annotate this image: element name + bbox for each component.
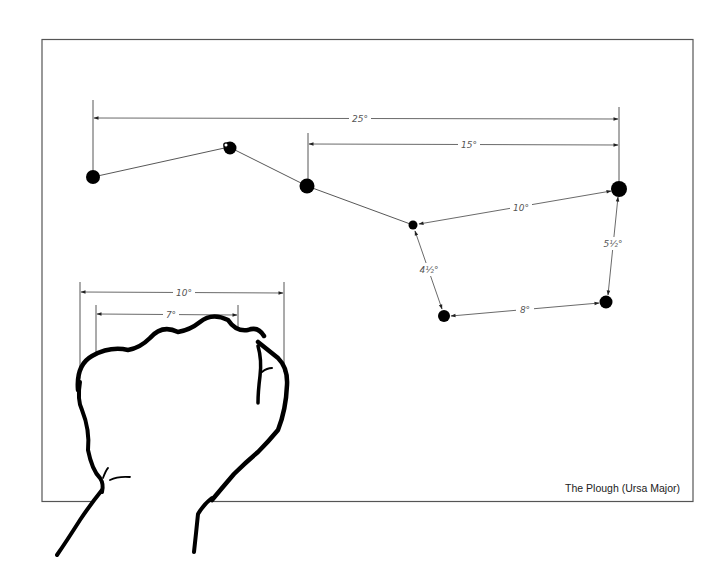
star-dubhe bbox=[611, 181, 627, 197]
label-5-5-degrees: 5½° bbox=[604, 239, 623, 249]
fist-illustration bbox=[40, 316, 287, 560]
dimension-25: 25° bbox=[94, 112, 618, 124]
constellation-lines bbox=[93, 147, 413, 225]
star-phecda bbox=[438, 310, 450, 322]
star-alioth bbox=[300, 179, 315, 194]
dimension-4-5: 4½° bbox=[415, 231, 442, 309]
dimension-8: 8° bbox=[451, 303, 599, 316]
dimension-15: 15° bbox=[309, 138, 618, 150]
label-15-degrees: 15° bbox=[461, 140, 477, 150]
stars bbox=[86, 142, 627, 323]
star-merak bbox=[600, 296, 613, 309]
dimension-5-5: 5½° bbox=[602, 197, 624, 295]
dimension-10-stars: 10° bbox=[419, 191, 611, 224]
label-8-degrees: 8° bbox=[520, 305, 530, 315]
dimension-fist-10: 10° bbox=[81, 286, 283, 298]
diagram-caption: The Plough (Ursa Major) bbox=[565, 482, 680, 494]
label-fist-7-degrees: 7° bbox=[166, 310, 176, 320]
label-10-degrees: 10° bbox=[513, 203, 529, 213]
label-fist-10-degrees: 10° bbox=[176, 288, 192, 298]
label-4-5-degrees: 4½° bbox=[420, 265, 439, 275]
star-alkaid bbox=[86, 170, 100, 184]
star-alcor-companion bbox=[224, 143, 228, 147]
star-megrez bbox=[409, 221, 418, 230]
plough-diagram: 25° 15° 10° 5½° 4½° 8° 10° 7° bbox=[0, 0, 719, 584]
label-25-degrees: 25° bbox=[352, 114, 368, 124]
